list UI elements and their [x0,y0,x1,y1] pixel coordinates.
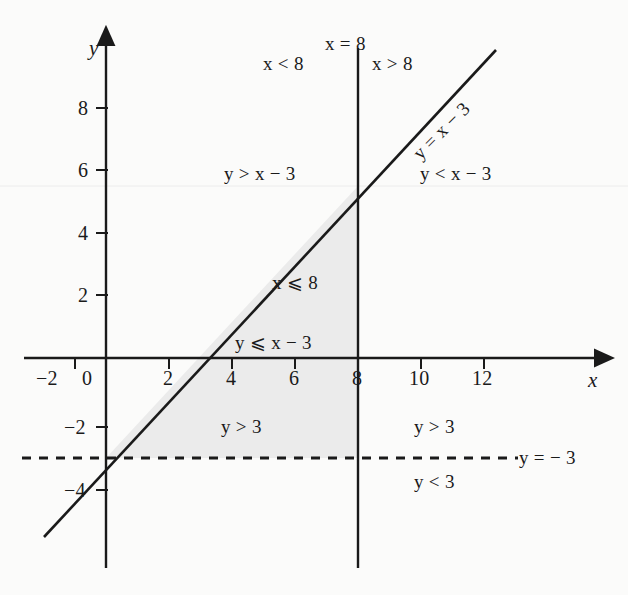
y-tick-label-2: 2 [78,285,88,305]
x-tick-label-2: 2 [163,368,173,388]
x-axis-label: x [588,370,597,391]
x-tick-label-10: 10 [409,368,429,388]
y-tick-label-4: 4 [78,223,88,243]
x-tick-label-minus-2: −2 [36,368,58,388]
label-right-y-less-than-3: y < 3 [414,472,455,491]
x-tick-label-6: 6 [289,368,299,388]
y-tick-label-minus-2: −2 [64,417,86,437]
label-region-x-le-8: x ⩽ 8 [272,273,318,292]
label-y-less-than-x-minus-3: y < x − 3 [420,164,492,183]
x-tick-label-8: 8 [352,368,362,388]
x-tick-label-12: 12 [472,368,492,388]
line-y-equals-x-minus-3 [44,50,496,537]
x-tick-label-0: 0 [82,368,92,388]
y-axis-label: y [89,38,98,59]
plot-canvas [0,0,628,595]
y-tick-label-minus-4: −4 [64,480,86,500]
label-x-less-than-8: x < 8 [263,54,304,73]
y-tick-label-8: 8 [78,98,88,118]
label-region-y-le-x-minus-3: y ⩽ x − 3 [235,333,312,352]
y-tick-label-6: 6 [78,160,88,180]
label-y-greater-than-x-minus-3: y > x − 3 [224,164,296,183]
label-right-y-greater-than-3: y > 3 [414,417,455,436]
graph-figure: y x −2 0 2 4 6 8 10 12 8 6 4 2 −2 −4 x =… [0,0,628,595]
label-x-greater-than-8: x > 8 [372,54,413,73]
label-y-equals-minus-3: y = − 3 [519,448,576,467]
label-region-y-greater-than-3: y > 3 [221,417,262,436]
x-tick-label-4: 4 [226,368,236,388]
label-x-equals-8: x = 8 [325,34,366,53]
